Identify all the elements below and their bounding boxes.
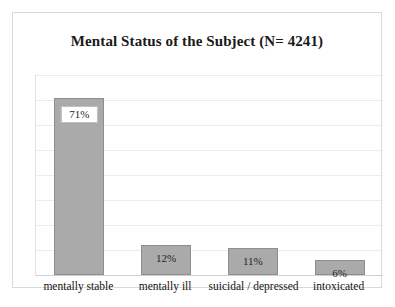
- bar-group: 71%: [54, 75, 104, 275]
- bar-group: 12%: [141, 75, 191, 275]
- bar-group: 11%: [228, 75, 278, 275]
- bar[interactable]: 11%: [228, 248, 278, 276]
- plot-area: 71%12%11%6%: [35, 75, 383, 276]
- bars-layer: 71%12%11%6%: [36, 75, 383, 275]
- bar[interactable]: 6%: [315, 260, 365, 275]
- bar-chart: Mental Status of the Subject (N= 4241) 7…: [0, 0, 395, 307]
- bar-group: 6%: [315, 75, 365, 275]
- category-label: intoxicated: [295, 279, 382, 293]
- bar[interactable]: 71%: [54, 98, 104, 276]
- bar-value-label: 11%: [241, 255, 265, 268]
- category-axis: mentally stablementally illsuicidal / de…: [35, 279, 383, 299]
- chart-title: Mental Status of the Subject (N= 4241): [13, 33, 381, 50]
- category-label: suicidal / depressed: [209, 279, 296, 293]
- bar[interactable]: 12%: [141, 245, 191, 275]
- bar-value-label: 71%: [61, 106, 97, 123]
- category-label: mentally stable: [35, 279, 122, 293]
- chart-frame: Mental Status of the Subject (N= 4241) 7…: [12, 12, 382, 288]
- category-label: mentally ill: [122, 279, 209, 293]
- bar-value-label: 12%: [154, 252, 178, 265]
